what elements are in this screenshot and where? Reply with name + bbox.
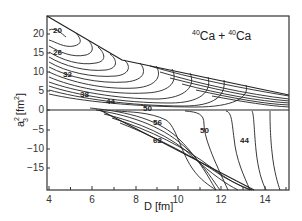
y-axis-title: a23[fm2] bbox=[13, 93, 29, 127]
y-tick-20: 20 bbox=[33, 28, 45, 39]
y-tick-5: 5 bbox=[38, 85, 44, 96]
x-tick-14: 14 bbox=[259, 194, 271, 205]
contour-label-20: 20 bbox=[53, 26, 62, 35]
contour-label-44b: 44 bbox=[240, 136, 249, 145]
y-tick-labels: 20 15 10 5 0 −5 −10 −15 bbox=[27, 28, 44, 173]
contour-chart: 20 26 32 38 44 50 56 62 50 44 40Ca+40Ca … bbox=[0, 0, 302, 221]
contour-label-62: 62 bbox=[153, 136, 162, 145]
contour-label-32: 32 bbox=[63, 70, 72, 79]
contour-label-50b: 50 bbox=[200, 126, 209, 135]
x-axis-title: D [fm] bbox=[144, 200, 173, 212]
y-tick-0: 0 bbox=[38, 104, 44, 115]
y-tick-10: 10 bbox=[33, 66, 45, 77]
y-tick-minus5: −5 bbox=[33, 124, 45, 135]
x-tick-4: 4 bbox=[46, 194, 52, 205]
contour-label-56: 56 bbox=[153, 118, 162, 127]
contour-label-38: 38 bbox=[80, 90, 89, 99]
contour-lines bbox=[47, 16, 289, 190]
contour-label-26: 26 bbox=[53, 48, 62, 57]
y-tick-minus15: −15 bbox=[27, 162, 44, 173]
y-tick-15: 15 bbox=[33, 47, 45, 58]
x-tick-12: 12 bbox=[215, 194, 227, 205]
contour-label-44: 44 bbox=[106, 97, 115, 106]
x-tick-10: 10 bbox=[172, 194, 184, 205]
x-tick-8: 8 bbox=[133, 194, 139, 205]
contour-label-50: 50 bbox=[143, 104, 152, 113]
contour-labels: 20 26 32 38 44 50 56 62 50 44 bbox=[53, 26, 249, 145]
y-tick-minus10: −10 bbox=[27, 143, 44, 154]
reaction-annotation: 40Ca+40Ca bbox=[192, 29, 252, 43]
x-tick-6: 6 bbox=[89, 194, 95, 205]
